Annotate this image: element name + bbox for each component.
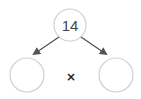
right-factor-circle[interactable] (99, 58, 133, 92)
left-factor-circle[interactable] (10, 58, 44, 92)
root-value: 14 (62, 17, 79, 34)
right-arrow (81, 37, 106, 54)
right-factor-node[interactable] (99, 58, 133, 92)
factor-tree-diagram: 14 × (0, 0, 141, 99)
root-node: 14 (54, 9, 86, 41)
multiply-operator: × (66, 70, 76, 84)
left-factor-node[interactable] (10, 58, 44, 92)
left-arrow (34, 37, 59, 54)
